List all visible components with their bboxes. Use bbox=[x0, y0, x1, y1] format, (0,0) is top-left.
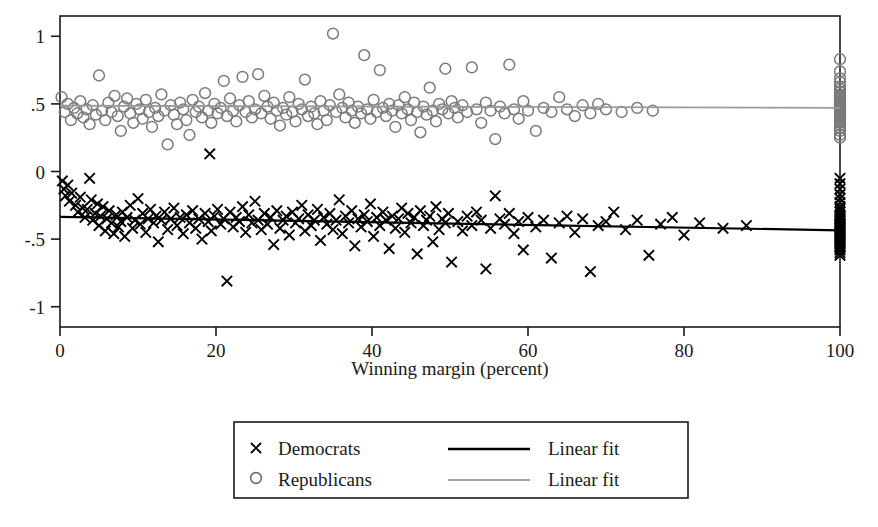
chart-canvas: 1.50-.5-1 020406080100 Winning margin (p… bbox=[0, 0, 878, 527]
legend-label-linear-fit-black: Linear fit bbox=[548, 438, 620, 459]
y-tick-label: 1 bbox=[36, 26, 46, 47]
y-tick-label: 0 bbox=[36, 162, 46, 183]
y-tick-label: .5 bbox=[31, 94, 45, 115]
x-tick-label: 20 bbox=[207, 340, 226, 361]
x-tick-label: 80 bbox=[675, 340, 694, 361]
scatter-chart-figure: 1.50-.5-1 020406080100 Winning margin (p… bbox=[0, 0, 878, 527]
x-axis-title: Winning margin (percent) bbox=[351, 358, 548, 380]
chart-legend: Democrats Republicans Linear fit Linear … bbox=[234, 422, 688, 498]
x-tick-label: 100 bbox=[826, 340, 855, 361]
y-tick-label: -.5 bbox=[24, 229, 45, 250]
x-tick-label: 0 bbox=[55, 340, 65, 361]
y-tick-label: -1 bbox=[29, 297, 45, 318]
legend-label-democrats: Democrats bbox=[278, 438, 360, 459]
legend-label-republicans: Republicans bbox=[278, 469, 372, 490]
legend-label-linear-fit-gray: Linear fit bbox=[548, 469, 620, 490]
